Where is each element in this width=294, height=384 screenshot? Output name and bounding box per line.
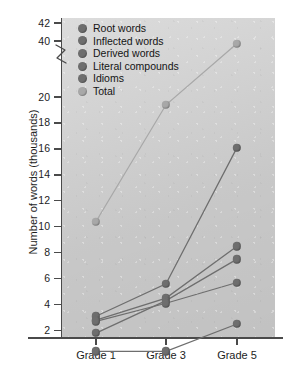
chart-figure: 24681012141618204042 Grade 1Grade 3Grade… xyxy=(0,0,294,384)
legend-item-root-words: Root words xyxy=(78,22,179,35)
legend-label: Literal compounds xyxy=(93,61,179,72)
series-line-root-words xyxy=(96,148,237,317)
legend-marker-icon xyxy=(78,87,87,96)
legend-item-idioms: Idioms xyxy=(78,72,179,85)
legend-item-derived-words: Derived words xyxy=(78,47,179,60)
legend-marker-icon xyxy=(78,36,87,45)
legend-item-total: Total xyxy=(78,85,179,98)
legend-marker-icon xyxy=(78,24,87,33)
legend-label: Inflected words xyxy=(93,36,164,47)
legend-marker-icon xyxy=(78,62,87,71)
legend-label: Derived words xyxy=(93,48,160,59)
legend-marker-icon xyxy=(78,49,87,58)
legend-label: Idioms xyxy=(93,73,124,84)
legend-label: Total xyxy=(93,86,115,97)
legend-item-inflected-words: Inflected words xyxy=(78,35,179,48)
legend-label: Root words xyxy=(93,23,146,34)
chart-legend: Root wordsInflected wordsDerived wordsLi… xyxy=(78,22,179,98)
legend-marker-icon xyxy=(78,74,87,83)
legend-item-literal-compounds: Literal compounds xyxy=(78,60,179,73)
